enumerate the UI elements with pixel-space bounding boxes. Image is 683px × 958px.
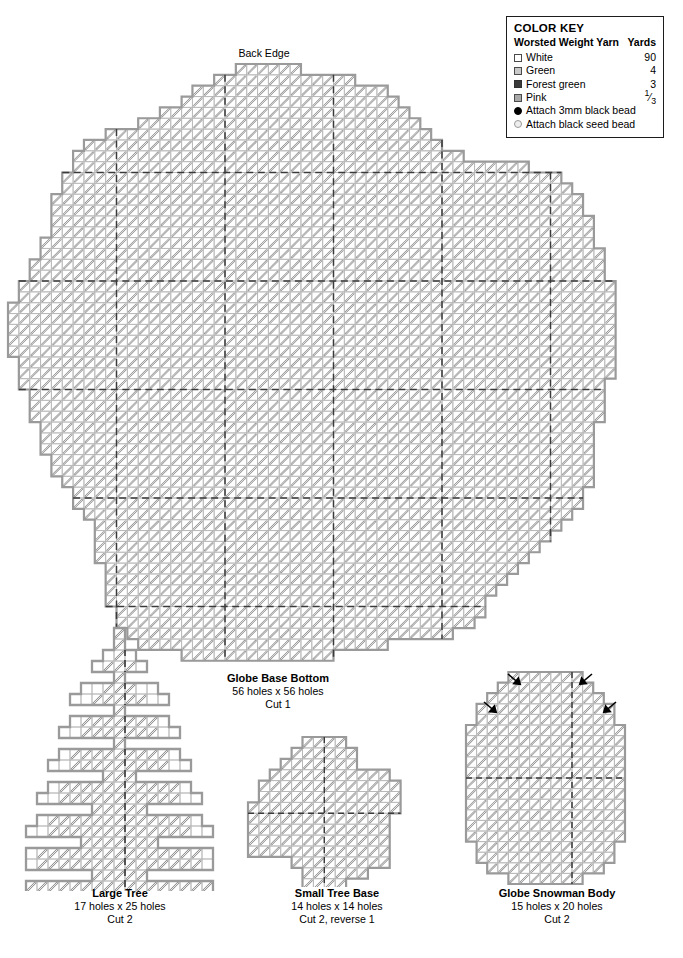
piece-size: 14 holes x 14 holes: [242, 900, 432, 913]
pattern-sheet: COLOR KEY Worsted Weight Yarn Yards Whit…: [0, 0, 683, 958]
swatch-white-icon: [514, 54, 522, 62]
piece-small-tree-base: [246, 735, 406, 887]
piece-large-tree: [24, 626, 216, 891]
piece-title: Small Tree Base: [242, 887, 432, 900]
piece-globe-base-bottom: [6, 62, 621, 677]
piece-cut: Cut 2, reverse 1: [242, 913, 432, 926]
globe-base-bottom-canvas: [6, 62, 621, 677]
piece-cut: Cut 2: [462, 913, 652, 926]
back-edge-label: Back Edge: [224, 47, 304, 59]
color-key-yards: 1⁄3: [644, 87, 656, 108]
piece-globe-snowman-body: [456, 666, 636, 886]
caption-small-tree-base: Small Tree Base 14 holes x 14 holes Cut …: [242, 887, 432, 927]
color-key-yards: 4: [650, 64, 656, 77]
color-key-header-right: Yards: [627, 36, 656, 49]
piece-cut: Cut 2: [25, 913, 215, 926]
piece-title: Globe Snowman Body: [462, 887, 652, 900]
globe-snowman-body-canvas: [456, 666, 636, 886]
piece-title: Large Tree: [25, 887, 215, 900]
caption-globe-snowman-body: Globe Snowman Body 15 holes x 20 holes C…: [462, 887, 652, 927]
small-tree-base-canvas: [246, 735, 406, 887]
color-key-header: Worsted Weight Yarn Yards: [514, 36, 656, 49]
color-key-header-left: Worsted Weight Yarn: [514, 36, 619, 49]
color-key-yards: 90: [644, 51, 656, 64]
caption-large-tree: Large Tree 17 holes x 25 holes Cut 2: [25, 887, 215, 927]
color-key-title: COLOR KEY: [514, 22, 656, 35]
piece-size: 15 holes x 20 holes: [462, 900, 652, 913]
piece-size: 17 holes x 25 holes: [25, 900, 215, 913]
large-tree-canvas: [24, 626, 216, 891]
